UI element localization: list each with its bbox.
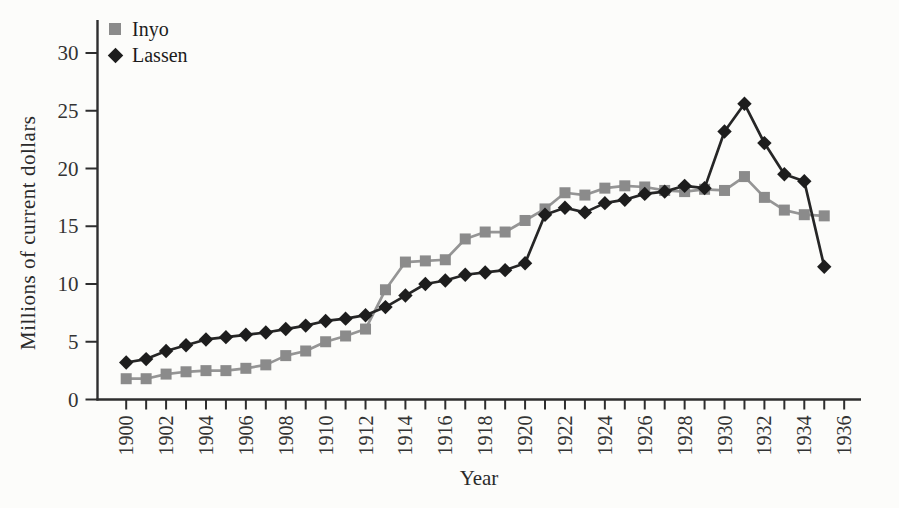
y-tick-label: 0 (68, 388, 79, 412)
inyo-point-1906 (240, 363, 251, 374)
inyo-point-1901 (141, 373, 152, 384)
lassen-point-1935 (817, 259, 831, 273)
inyo-point-1916 (440, 254, 451, 265)
lassen-point-1901 (139, 352, 153, 366)
x-tick-label: 1924 (594, 416, 616, 456)
inyo-point-1917 (460, 233, 471, 244)
inyo-point-1909 (300, 345, 311, 356)
y-tick-label: 20 (58, 157, 79, 181)
inyo-point-1920 (520, 215, 531, 226)
legend-label-lassen: Lassen (132, 44, 188, 67)
lassen-point-1920 (518, 256, 532, 270)
x-tick-label: 1904 (195, 416, 217, 456)
inyo-point-1905 (220, 365, 231, 376)
y-tick-label: 5 (68, 330, 79, 354)
inyo-point-1935 (819, 210, 830, 221)
x-tick-label: 1918 (474, 416, 496, 456)
x-tick-label: 1908 (275, 416, 297, 456)
lassen-point-1923 (578, 205, 592, 219)
inyo-series-line (126, 177, 824, 379)
lassen-point-1934 (797, 174, 811, 188)
x-tick-label: 1916 (434, 416, 456, 456)
lassen-point-1906 (239, 328, 253, 342)
lassen-point-1904 (199, 332, 213, 346)
inyo-point-1924 (599, 183, 610, 194)
legend: Inyo Lassen (109, 16, 188, 68)
inyo-point-1933 (779, 205, 790, 216)
inyo-point-1919 (500, 227, 511, 238)
inyo-point-1923 (579, 190, 590, 201)
x-tick-label: 1922 (554, 416, 576, 456)
lassen-point-1933 (777, 167, 791, 181)
inyo-point-1910 (320, 336, 331, 347)
y-tick-label: 15 (58, 214, 79, 238)
lassen-point-1922 (558, 201, 572, 215)
inyo-point-1931 (739, 171, 750, 182)
legend-item-inyo: Inyo (109, 16, 188, 42)
inyo-point-1904 (200, 365, 211, 376)
x-tick-label: 1926 (634, 416, 656, 456)
x-tick-label: 1936 (833, 416, 855, 456)
lassen-point-1902 (159, 344, 173, 358)
x-tick-label: 1914 (394, 416, 416, 456)
y-tick-label: 10 (58, 272, 79, 296)
lassen-point-1915 (418, 277, 432, 291)
lassen-point-1905 (219, 330, 233, 344)
lassen-point-1900 (119, 355, 133, 369)
inyo-point-1908 (280, 350, 291, 361)
y-tick-label: 30 (58, 41, 79, 65)
inyo-point-1915 (420, 255, 431, 266)
lassen-series-line (126, 104, 824, 363)
x-tick-label: 1910 (315, 416, 337, 456)
x-tick-label: 1900 (115, 416, 137, 456)
inyo-point-1925 (619, 180, 630, 191)
lassen-point-1918 (478, 265, 492, 279)
lassen-point-1911 (338, 311, 352, 325)
lassen-point-1910 (318, 314, 332, 328)
lassen-point-1908 (279, 322, 293, 336)
plot-canvas: 0510152025301900190219041906190819101912… (0, 0, 899, 508)
lassen-point-1932 (757, 136, 771, 150)
x-tick-label: 1906 (235, 416, 257, 456)
y-tick-label: 25 (58, 99, 79, 123)
lassen-point-1917 (458, 268, 472, 282)
x-tick-label: 1932 (753, 416, 775, 456)
legend-item-lassen: Lassen (109, 42, 188, 68)
inyo-point-1907 (260, 359, 271, 370)
inyo-point-1900 (121, 373, 132, 384)
square-icon (109, 23, 121, 35)
x-tick-label: 1912 (355, 416, 377, 456)
inyo-point-1912 (360, 324, 371, 335)
x-axis-title: Year (97, 466, 861, 491)
x-tick-label: 1934 (793, 416, 815, 456)
x-tick-label: 1902 (155, 416, 177, 456)
x-tick-label: 1920 (514, 416, 536, 456)
y-axis-title: Millions of current dollars (16, 95, 42, 370)
inyo-point-1913 (380, 284, 391, 295)
lassen-point-1925 (618, 192, 632, 206)
lassen-point-1903 (179, 338, 193, 352)
inyo-point-1902 (161, 369, 172, 380)
inyo-point-1930 (719, 185, 730, 196)
inyo-point-1922 (559, 187, 570, 198)
x-tick-label: 1930 (714, 416, 736, 456)
lassen-point-1919 (498, 263, 512, 277)
inyo-point-1932 (759, 192, 770, 203)
lassen-point-1907 (259, 325, 273, 339)
inyo-point-1934 (799, 209, 810, 220)
lassen-point-1914 (398, 288, 412, 302)
inyo-point-1911 (340, 330, 351, 341)
diamond-icon (108, 47, 124, 63)
lassen-point-1916 (438, 273, 452, 287)
inyo-point-1903 (181, 366, 192, 377)
legend-label-inyo: Inyo (132, 18, 169, 41)
chart-figure: 0510152025301900190219041906190819101912… (0, 0, 899, 508)
lassen-point-1924 (598, 196, 612, 210)
inyo-point-1918 (480, 227, 491, 238)
inyo-point-1914 (400, 257, 411, 268)
x-tick-label: 1928 (674, 416, 696, 456)
lassen-point-1909 (298, 318, 312, 332)
